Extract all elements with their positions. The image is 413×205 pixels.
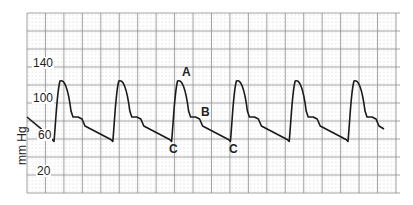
annotation-b-dicrotic-notch: B (201, 105, 210, 119)
pressure-chart (0, 0, 413, 205)
y-tick-140: 140 (32, 57, 54, 69)
y-axis-title: mm Hg (15, 126, 29, 165)
y-tick-60: 60 (37, 129, 52, 141)
annotation-a-systolic-peak: A (182, 65, 191, 79)
annotation-c-end-diastole-2: C (229, 142, 238, 156)
y-tick-20: 20 (36, 165, 51, 177)
y-tick-100: 100 (32, 92, 54, 104)
annotation-c-end-diastole-1: C (169, 142, 178, 156)
